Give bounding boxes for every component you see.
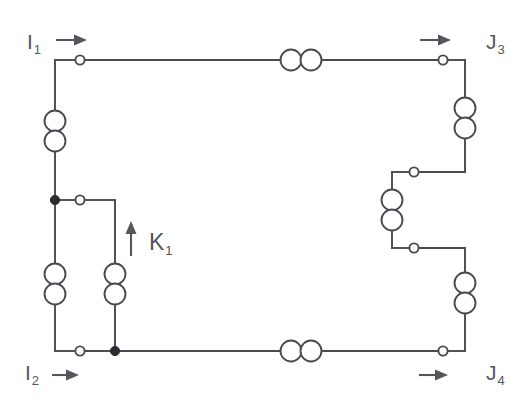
label-j3: J3 [486,31,504,52]
junction-bottom-branch [110,346,119,355]
terminal-k1-branch[interactable] [75,195,84,204]
terminal-i2[interactable] [75,346,84,355]
label-j4-symbol: J [486,361,497,384]
label-j3-subscript: 3 [498,42,505,57]
current-arrow-i1 [56,35,87,46]
label-i1: I1 [27,31,40,52]
terminal-j4[interactable] [438,346,447,355]
circuit-schematic-canvas [0,0,527,403]
circuit-diagram: I1 J3 I2 J4 K1 [0,0,527,403]
current-arrow-j4 [419,370,448,381]
coil-bottom-rail [281,341,322,362]
coil-left-upper-turn-2 [45,131,66,152]
label-k1-symbol: K [149,229,164,255]
coil-left-lower [45,264,66,305]
coil-right-middle [382,190,403,231]
current-arrow-k1 [126,221,137,256]
coil-bottom-rail-turn-2 [301,341,322,362]
coil-top-rail-turn-2 [301,50,322,71]
label-i1-symbol: I [27,30,33,53]
coil-right-upper-turn-2 [455,118,476,139]
coil-right-lower-turn-1 [455,273,476,294]
coil-left-lower-turn-2 [45,284,66,305]
coil-right-upper-turn-1 [455,98,476,119]
label-k1-subscript: 1 [165,243,172,258]
junction-left-middle [50,195,59,204]
label-i2-subscript: 2 [32,373,39,388]
label-j4-subscript: 4 [498,373,505,388]
terminal-i1[interactable] [75,55,84,64]
coil-left-upper-turn-1 [45,111,66,132]
terminal-right-lower-step[interactable] [409,243,418,252]
label-i2: I2 [25,362,38,383]
coil-left-lower-turn-1 [45,264,66,285]
label-j4: J4 [486,362,504,383]
coil-top-rail [281,50,322,71]
coil-middle-branch-turn-2 [105,284,126,305]
terminal-right-upper-step[interactable] [409,167,418,176]
right-rail-group [392,60,465,351]
coil-bottom-rail-turn-1 [281,341,302,362]
terminal-j3[interactable] [438,55,447,64]
coil-right-lower-turn-2 [455,293,476,314]
label-j3-symbol: J [486,30,497,53]
coil-right-middle-turn-1 [382,190,403,211]
label-i2-symbol: I [25,361,31,384]
label-k1: K1 [149,231,172,254]
coil-middle-branch [105,264,126,305]
coil-middle-branch-turn-1 [105,264,126,285]
coil-right-middle-turn-2 [382,210,403,231]
coil-left-upper [45,111,66,152]
coil-right-upper [455,98,476,139]
coil-top-rail-turn-1 [281,50,302,71]
coil-right-lower [455,273,476,314]
current-arrow-j3 [420,35,451,46]
current-arrow-i2 [52,370,79,381]
label-i1-subscript: 1 [34,42,41,57]
